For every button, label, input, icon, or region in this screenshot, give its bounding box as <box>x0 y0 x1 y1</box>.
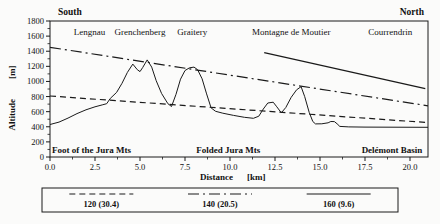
legend-120-label: 120 (30.4) <box>84 199 120 209</box>
region-label-top: Grenchenberg <box>115 27 166 37</box>
x-tick-label: 0.0 <box>45 162 56 172</box>
y-axis-unit: [m] <box>7 66 17 80</box>
y-tick-label: 200 <box>31 137 44 147</box>
zone-label-bottom: Folded Jura Mts <box>196 145 260 155</box>
y-tick-label: 1200 <box>27 61 44 71</box>
x-tick-label: 17.5 <box>358 162 373 172</box>
elevation-profile-chart: 0.02.55.07.510.012.515.017.520.002004006… <box>0 0 440 224</box>
region-label-top: Courrendrin <box>368 27 412 37</box>
legend-160-label: 160 (9.6) <box>323 199 354 209</box>
x-tick-label: 2.5 <box>90 162 101 172</box>
y-tick-label: 1600 <box>27 31 44 41</box>
y-tick-label: 0 <box>40 152 44 162</box>
y-tick-label: 600 <box>31 107 44 117</box>
region-label-top: Graitery <box>177 27 207 37</box>
topographic-profile-line <box>50 60 428 127</box>
y-axis-title: Altitude <box>7 99 17 131</box>
region-label-top: Montagne de Moutier <box>252 27 330 37</box>
x-tick-label: 20.0 <box>403 162 418 172</box>
x-tick-label: 10.0 <box>223 162 238 172</box>
x-axis-unit: [km] <box>247 172 266 182</box>
direction-label-north: North <box>400 7 425 17</box>
isoline-120-line <box>50 96 428 123</box>
zone-label-bottom: Foot of the Jura Mts <box>52 145 131 155</box>
isoline-160-line <box>264 53 425 89</box>
x-tick-label: 7.5 <box>180 162 191 172</box>
jura-cross-section-figure: 0.02.55.07.510.012.515.017.520.002004006… <box>0 0 440 224</box>
direction-label-south: South <box>58 7 82 17</box>
x-tick-label: 12.5 <box>268 162 283 172</box>
y-tick-label: 400 <box>31 122 44 132</box>
zone-label-bottom: Delémont Basin <box>362 145 423 155</box>
region-label-top: Lengnau <box>74 27 106 37</box>
y-tick-label: 1000 <box>27 76 44 86</box>
y-tick-label: 800 <box>31 92 44 102</box>
legend-140-label: 140 (20.5) <box>202 199 238 209</box>
y-tick-label: 1400 <box>27 46 44 56</box>
plot-border <box>50 21 428 157</box>
x-axis-title: Distance <box>200 172 233 182</box>
x-tick-label: 5.0 <box>135 162 146 172</box>
y-axis-title-group: Altitude[m] <box>7 66 17 131</box>
x-tick-label: 15.0 <box>313 162 328 172</box>
y-tick-label: 1800 <box>27 16 44 26</box>
